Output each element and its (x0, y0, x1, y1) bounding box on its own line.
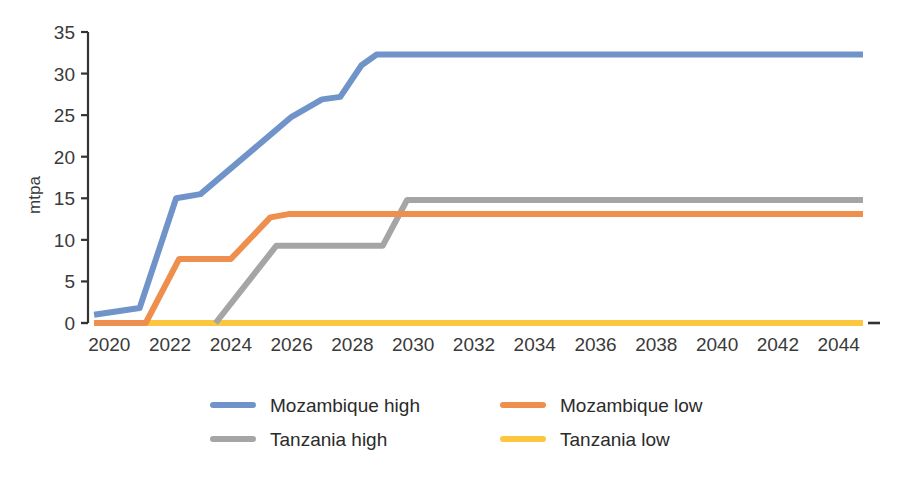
chart-container: 05101520253035mtpa2020202220242026202820… (0, 0, 908, 482)
legend-swatch-tanzania-high (210, 436, 256, 442)
legend-item-mozambique-low[interactable]: Mozambique low (500, 396, 790, 415)
x-axis-tick-label: 2038 (635, 334, 677, 355)
series-line-mozambique-high (94, 54, 863, 314)
legend-item-tanzania-high[interactable]: Tanzania high (210, 430, 500, 449)
y-axis-tick-label: 30 (54, 64, 75, 85)
legend-label-mozambique-high: Mozambique high (270, 396, 420, 415)
y-axis-tick-label: 10 (54, 230, 75, 251)
x-axis-tick-label: 2022 (149, 334, 191, 355)
legend-swatch-tanzania-low (500, 436, 546, 442)
x-axis-tick-label: 2030 (392, 334, 434, 355)
y-axis-tick-label: 0 (64, 313, 75, 334)
legend-label-tanzania-high: Tanzania high (270, 430, 387, 449)
y-axis-tick-label: 15 (54, 188, 75, 209)
x-axis-tick-label: 2042 (757, 334, 799, 355)
x-axis-tick-label: 2044 (818, 334, 861, 355)
legend-swatch-mozambique-low (500, 402, 546, 408)
x-axis-tick-label: 2032 (453, 334, 495, 355)
x-axis-tick-label: 2026 (270, 334, 312, 355)
y-axis-tick-label: 25 (54, 105, 75, 126)
x-axis-tick-label: 2024 (210, 334, 253, 355)
x-axis-tick-label: 2040 (696, 334, 738, 355)
y-axis-tick-label: 5 (64, 271, 75, 292)
y-axis-tick-label: 20 (54, 147, 75, 168)
chart-legend: Mozambique high Mozambique low Tanzania … (210, 388, 770, 456)
legend-label-tanzania-low: Tanzania low (560, 430, 670, 449)
legend-item-tanzania-low[interactable]: Tanzania low (500, 430, 790, 449)
y-axis-title: mtpa (25, 176, 44, 214)
x-axis-tick-label: 2034 (514, 334, 557, 355)
x-axis-tick-label: 2020 (88, 334, 130, 355)
x-axis-tick-label: 2036 (574, 334, 616, 355)
series-line-tanzania-high (216, 200, 863, 323)
legend-label-mozambique-low: Mozambique low (560, 396, 703, 415)
y-axis-tick-label: 35 (54, 22, 75, 43)
series-line-mozambique-low (94, 214, 863, 323)
legend-item-mozambique-high[interactable]: Mozambique high (210, 396, 500, 415)
legend-swatch-mozambique-high (210, 402, 256, 408)
x-axis-tick-label: 2028 (331, 334, 373, 355)
